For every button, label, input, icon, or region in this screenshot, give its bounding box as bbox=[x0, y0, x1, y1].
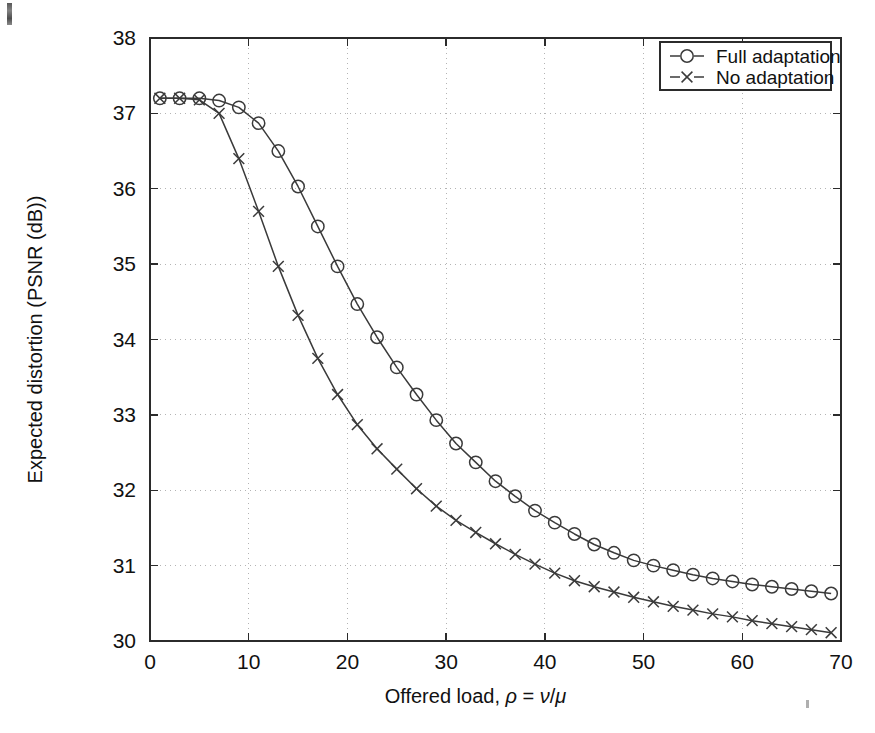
y-tick-label: 35 bbox=[113, 252, 136, 275]
y-tick-label: 33 bbox=[113, 403, 136, 426]
y-tick-label: 34 bbox=[113, 328, 137, 351]
chart-legend[interactable]: Full adaptationNo adaptation bbox=[660, 42, 841, 90]
title-text: Offered load, bbox=[385, 685, 506, 707]
scan-artifact-dot bbox=[806, 700, 809, 708]
chart-svg: 010203040506070303132333435363738 Full a… bbox=[0, 0, 875, 733]
x-tick-label: 0 bbox=[144, 650, 156, 673]
data-series-layer bbox=[154, 92, 838, 638]
x-tick-label: 40 bbox=[533, 650, 556, 673]
greek-symbol: ρ bbox=[505, 685, 517, 707]
series-no-adaptation bbox=[154, 93, 836, 638]
y-tick-label: 30 bbox=[113, 629, 136, 652]
x-tick-label: 60 bbox=[731, 650, 754, 673]
y-tick-label: 36 bbox=[113, 177, 136, 200]
y-tick-label: 37 bbox=[113, 101, 136, 124]
figure-container: 010203040506070303132333435363738 Full a… bbox=[0, 0, 875, 733]
greek-symbol: ν bbox=[540, 685, 550, 707]
grid-layer bbox=[150, 38, 841, 641]
scan-artifact-mark bbox=[7, 3, 12, 25]
x-tick-label: 50 bbox=[632, 650, 655, 673]
y-tick-label: 31 bbox=[113, 554, 136, 577]
series-line bbox=[160, 98, 831, 632]
greek-symbol: μ bbox=[554, 685, 566, 707]
x-tick-label: 30 bbox=[434, 650, 457, 673]
x-tick-label: 70 bbox=[829, 650, 852, 673]
legend-label: No adaptation bbox=[716, 67, 834, 88]
x-tick-label: 10 bbox=[237, 650, 260, 673]
series-full-adaptation bbox=[154, 92, 838, 600]
y-tick-label: 32 bbox=[113, 478, 136, 501]
x-axis-title: Offered load, ρ = ν/μ bbox=[385, 685, 567, 707]
axis-titles: Offered load, ρ = ν/μExpected distortion… bbox=[24, 196, 566, 707]
y-axis-title: Expected distortion (PSNR (dB)) bbox=[24, 196, 46, 484]
x-tick-label: 20 bbox=[336, 650, 359, 673]
title-text: = bbox=[517, 685, 540, 707]
series-line bbox=[160, 98, 831, 593]
legend-label: Full adaptation bbox=[716, 46, 841, 67]
y-tick-label: 38 bbox=[113, 26, 136, 49]
